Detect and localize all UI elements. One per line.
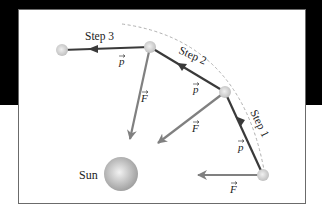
planet-position-start — [257, 169, 269, 181]
svg-text:F: F — [140, 92, 148, 104]
planet-position-1 — [219, 86, 231, 98]
momentum-step2-arrowhead — [177, 63, 187, 71]
momentum-label-3: p — [118, 55, 125, 68]
momentum-step3-arrowhead — [88, 45, 98, 53]
momentum-step1-line — [225, 92, 263, 175]
planet-position-2 — [144, 41, 156, 53]
force-vectors — [130, 47, 263, 175]
force-label-3: F — [140, 91, 148, 105]
orbit-diagram: Sun Step 3 Step 2 Step 1 p p p F F F — [0, 0, 322, 217]
force-label-1: F — [229, 182, 237, 196]
step3-label: Step 3 — [85, 30, 114, 43]
momentum-vectors — [62, 45, 263, 175]
force-arrow-2 — [158, 92, 225, 143]
sun — [104, 157, 138, 191]
force-label-2: F — [191, 121, 199, 135]
planet-position-3 — [56, 44, 68, 56]
svg-text:F: F — [191, 122, 199, 134]
svg-text:F: F — [229, 183, 237, 195]
momentum-label-2: p — [192, 83, 199, 96]
momentum-label-1: p — [237, 140, 244, 154]
svg-text:p: p — [237, 141, 244, 153]
sun-label: Sun — [79, 168, 98, 182]
momentum-step3-line — [62, 47, 150, 50]
